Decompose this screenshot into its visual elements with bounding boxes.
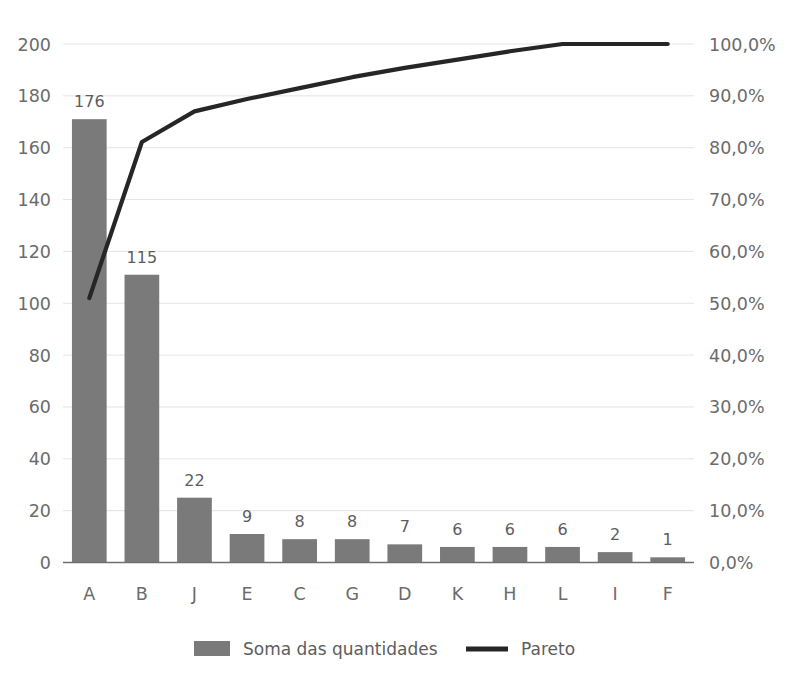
bar-value-label-H: 6 <box>505 520 515 539</box>
bar-B <box>125 275 160 563</box>
bar-value-label-C: 8 <box>295 512 305 531</box>
bar-value-label-K: 6 <box>452 520 462 539</box>
y-left-tick-80: 80 <box>29 346 51 366</box>
y-right-tick-10,0: 10,0% <box>709 501 765 521</box>
x-category-label-H: H <box>503 584 516 604</box>
y-axis-left-labels: 020406080100120140160180200 <box>18 35 51 574</box>
y-right-tick-20,0: 20,0% <box>709 449 765 469</box>
y-left-tick-60: 60 <box>29 397 51 417</box>
bar-value-label-J: 22 <box>184 471 204 490</box>
pareto-line <box>89 44 667 298</box>
y-left-tick-0: 0 <box>40 553 51 573</box>
bar-value-label-B: 115 <box>127 248 158 267</box>
y-axis-right-labels: 0,0%10,0%20,0%30,0%40,0%50,0%60,0%70,0%8… <box>709 35 776 574</box>
y-right-tick-0,0: 0,0% <box>709 553 753 573</box>
bar-D <box>387 544 422 562</box>
bar-value-label-G: 8 <box>347 512 357 531</box>
y-left-tick-200: 200 <box>18 35 51 55</box>
x-category-label-K: K <box>452 584 464 604</box>
pareto-line-group <box>89 44 667 298</box>
legend-label-bar-series: Soma das quantidades <box>243 639 438 659</box>
bar-A <box>72 119 107 562</box>
x-category-label-C: C <box>294 584 306 604</box>
x-axis-category-labels: ABJECGDKHLIF <box>83 584 672 604</box>
y-right-tick-90,0: 90,0% <box>709 86 765 106</box>
x-category-label-I: I <box>613 584 618 604</box>
bar-value-label-A: 176 <box>74 92 105 111</box>
bar-C <box>282 539 317 562</box>
pareto-chart: 17611522988766621 0204060801001201401601… <box>0 0 802 696</box>
bar-value-labels-group: 17611522988766621 <box>74 92 673 549</box>
y-right-tick-70,0: 70,0% <box>709 190 765 210</box>
y-left-tick-40: 40 <box>29 449 51 469</box>
y-left-tick-180: 180 <box>18 86 51 106</box>
y-left-tick-20: 20 <box>29 501 51 521</box>
y-left-tick-160: 160 <box>18 138 51 158</box>
x-category-label-F: F <box>663 584 673 604</box>
bar-value-label-I: 2 <box>610 525 620 544</box>
x-category-label-L: L <box>558 584 568 604</box>
bar-H <box>493 547 528 563</box>
bar-value-label-F: 1 <box>663 530 673 549</box>
bar-E <box>230 534 265 563</box>
bar-value-label-L: 6 <box>557 520 567 539</box>
bar-K <box>440 547 475 563</box>
bar-value-label-D: 7 <box>400 517 410 536</box>
bar-I <box>598 552 633 562</box>
cropped-title-remnant <box>120 0 380 4</box>
y-right-tick-80,0: 80,0% <box>709 138 765 158</box>
y-left-tick-140: 140 <box>18 190 51 210</box>
x-category-label-D: D <box>398 584 411 604</box>
chart-legend: Soma das quantidades Pareto <box>194 639 575 659</box>
bar-G <box>335 539 370 562</box>
y-right-tick-60,0: 60,0% <box>709 242 765 262</box>
legend-swatch-bar-series <box>194 641 230 656</box>
y-right-tick-50,0: 50,0% <box>709 294 765 314</box>
y-right-tick-30,0: 30,0% <box>709 397 765 417</box>
bars-group <box>72 119 685 562</box>
legend-label-line-series: Pareto <box>521 639 575 659</box>
bar-J <box>177 498 212 563</box>
y-left-tick-120: 120 <box>18 242 51 262</box>
x-category-label-G: G <box>345 584 359 604</box>
x-category-label-A: A <box>83 584 95 604</box>
y-left-tick-100: 100 <box>18 294 51 314</box>
x-category-label-B: B <box>136 584 148 604</box>
chart-canvas: 17611522988766621 0204060801001201401601… <box>0 0 802 696</box>
bar-value-label-E: 9 <box>242 507 252 526</box>
x-category-label-J: J <box>191 584 197 604</box>
bar-L <box>545 547 580 563</box>
y-right-tick-40,0: 40,0% <box>709 346 765 366</box>
x-category-label-E: E <box>242 584 253 604</box>
y-right-tick-100,0: 100,0% <box>709 35 776 55</box>
